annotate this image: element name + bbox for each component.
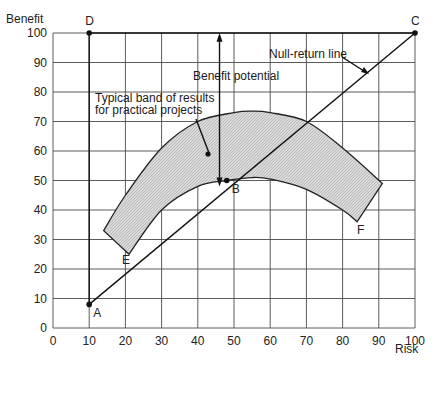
- y-tick-label: 80: [34, 85, 48, 99]
- point-label-f: F: [357, 223, 364, 237]
- y-tick-label: 60: [34, 144, 48, 158]
- arrow-head-up-icon: [217, 33, 223, 42]
- x-tick-label: 60: [264, 334, 278, 348]
- point-b: [224, 178, 230, 184]
- typical-band: [104, 111, 383, 254]
- risk-benefit-chart: 0102030405060708090100010203040506070809…: [0, 0, 437, 399]
- arrow-head-icon: [361, 67, 369, 74]
- x-tick-label: 80: [336, 334, 350, 348]
- band-label-line2: for practical projects: [95, 103, 202, 117]
- x-tick-label: 50: [227, 334, 241, 348]
- band-pointer-dot: [205, 151, 210, 156]
- y-tick-label: 20: [34, 262, 48, 276]
- x-tick-label: 40: [191, 334, 205, 348]
- point-label-b: B: [232, 182, 240, 196]
- y-tick-label: 0: [40, 321, 47, 335]
- x-tick-label: 0: [50, 334, 57, 348]
- typical-band-region: [104, 111, 383, 254]
- y-tick-label: 50: [34, 174, 48, 188]
- point-label-c: C: [411, 14, 420, 28]
- y-tick-label: 10: [34, 292, 48, 306]
- y-tick-label: 100: [27, 26, 47, 40]
- point-label-a: A: [93, 306, 101, 320]
- point-a: [86, 302, 92, 308]
- y-axis-title: Benefit: [6, 12, 44, 26]
- y-tick-label: 40: [34, 203, 48, 217]
- y-tick-label: 70: [34, 115, 48, 129]
- figure-caption-cropped: [0, 388, 437, 399]
- x-tick-label: 90: [372, 334, 386, 348]
- x-axis-title: Risk: [395, 342, 419, 356]
- y-tick-label: 90: [34, 56, 48, 70]
- x-tick-label: 70: [300, 334, 314, 348]
- point-label-e: E: [122, 253, 130, 267]
- x-tick-label: 10: [83, 334, 97, 348]
- x-tick-label: 30: [155, 334, 169, 348]
- point-label-d: D: [85, 14, 94, 28]
- x-tick-label: 20: [119, 334, 133, 348]
- benefit-potential-label: Benefit potential: [193, 69, 279, 83]
- point-c: [412, 30, 418, 36]
- y-tick-label: 30: [34, 233, 48, 247]
- point-d: [86, 30, 92, 36]
- null-return-line-label: Null-return line: [269, 47, 347, 61]
